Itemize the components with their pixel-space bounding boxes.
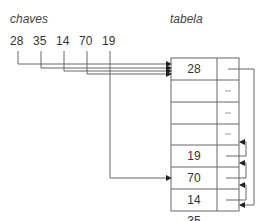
link-row6: [226, 163, 246, 178]
arrow-key-35: [41, 51, 171, 68]
row-7-key: 35: [171, 214, 217, 221]
row-6-key: 14: [171, 193, 217, 207]
diagram-lines: [0, 0, 268, 221]
row-0-key: 28: [171, 62, 217, 76]
link-row5: [226, 142, 246, 156]
link-row7: [226, 185, 246, 200]
row-5-key: 70: [171, 171, 217, 185]
arrow-key-19: [110, 51, 171, 178]
row-4-key: 19: [171, 149, 217, 163]
